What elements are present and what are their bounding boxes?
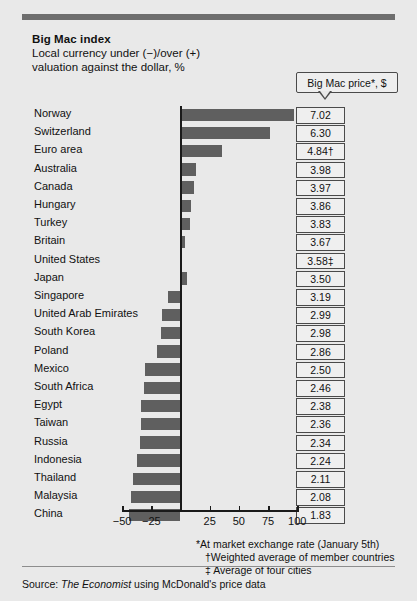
chart-bar: [182, 181, 195, 194]
country-label: Thailand: [34, 471, 76, 483]
source-publication: The Economist: [61, 578, 131, 590]
chart-bar: [182, 200, 191, 213]
country-label: Taiwan: [34, 416, 68, 428]
bottom-rule: [22, 566, 395, 567]
chart-row: Canada3.97: [0, 179, 417, 197]
chart-bar: [133, 473, 181, 486]
price-value-box: 2.99: [296, 307, 345, 324]
x-axis-tick: [239, 506, 241, 512]
price-value-box: 2.36: [296, 416, 345, 433]
chart-bar: [137, 454, 180, 467]
chart-row: Taiwan2.36: [0, 415, 417, 433]
chart-bar: [144, 382, 180, 395]
chart-bar: [182, 145, 223, 158]
price-value-box: 3.97: [296, 180, 345, 197]
price-value-box: 3.83: [296, 216, 345, 233]
country-label: Singapore: [34, 289, 84, 301]
country-label: United Arab Emirates: [34, 307, 138, 319]
chart-bar: [182, 127, 271, 140]
chart-row: Indonesia2.24: [0, 452, 417, 470]
chart-bar: [182, 236, 186, 249]
chart-row: Malaysia2.08: [0, 488, 417, 506]
zero-axis-line: [180, 106, 182, 510]
x-axis-tick: [210, 506, 212, 512]
chart-bar: [182, 109, 294, 122]
price-value-box: 2.38: [296, 398, 345, 415]
chart-row: Thailand2.11: [0, 470, 417, 488]
footnote-star: *At market exchange rate (January 5th): [196, 538, 379, 550]
price-value-box: 3.98: [296, 162, 345, 179]
bar-chart-plot-area: Norway7.02Switzerland6.30Euro area4.84†A…: [0, 106, 417, 506]
price-value-box: 2.24: [296, 453, 345, 470]
chart-row: Egypt2.38: [0, 397, 417, 415]
country-label: Canada: [34, 180, 73, 192]
country-label: Russia: [34, 435, 68, 447]
chart-row: Hungary3.86: [0, 197, 417, 215]
chart-row: Norway7.02: [0, 106, 417, 124]
chart-row: United States3.58‡: [0, 252, 417, 270]
country-label: United States: [34, 253, 100, 265]
price-column-header: Big Mac price*, $: [296, 72, 398, 93]
chart-row: Australia3.98: [0, 161, 417, 179]
price-value-box: 2.34: [296, 435, 345, 452]
country-label: Indonesia: [34, 453, 82, 465]
chart-bar: [168, 291, 181, 304]
x-axis-tick: [151, 506, 153, 512]
country-label: Malaysia: [34, 489, 77, 501]
x-axis-tick-label: 25: [204, 515, 216, 527]
country-label: Switzerland: [34, 125, 91, 137]
chart-row: Russia2.34: [0, 434, 417, 452]
chart-bar: [141, 400, 181, 413]
chart-row: Singapore3.19: [0, 288, 417, 306]
chart-row: Switzerland6.30: [0, 124, 417, 142]
chart-row: Britain3.67: [0, 233, 417, 251]
chart-row: Turkey3.83: [0, 215, 417, 233]
country-label: Egypt: [34, 398, 62, 410]
chart-bar: [182, 272, 188, 285]
chart-bar: [162, 309, 181, 322]
price-value-box: 2.11: [296, 471, 345, 488]
source-suffix: using McDonald's price data: [131, 578, 266, 590]
country-label: Australia: [34, 162, 77, 174]
price-value-box: 2.46: [296, 380, 345, 397]
chart-row: Euro area4.84†: [0, 142, 417, 160]
source-line: Source: The Economist using McDonald's p…: [22, 578, 266, 590]
chart-row: United Arab Emirates2.99: [0, 306, 417, 324]
country-label: China: [34, 507, 63, 519]
chart-bar: [140, 436, 181, 449]
x-axis-tick: [268, 506, 270, 512]
country-label: Euro area: [34, 143, 82, 155]
chart-bar: [161, 327, 181, 340]
country-label: Mexico: [34, 362, 69, 374]
price-value-box: 3.86: [296, 198, 345, 215]
price-value-box: 3.67: [296, 234, 345, 251]
x-axis-tick-label: −50: [113, 515, 132, 527]
price-value-box: 2.08: [296, 489, 345, 506]
x-axis-tick: [181, 506, 183, 512]
subtitle-line-2: valuation against the dollar, %: [32, 61, 185, 73]
price-value-box: 4.84†: [296, 143, 345, 160]
country-label: Britain: [34, 234, 65, 246]
country-label: South Korea: [34, 325, 95, 337]
x-axis-tick: [122, 506, 124, 512]
x-axis-tick-label: −25: [142, 515, 161, 527]
chart-row: South Korea2.98: [0, 324, 417, 342]
country-label: Norway: [34, 107, 71, 119]
chart-bar: [182, 218, 190, 231]
source-prefix: Source:: [22, 578, 61, 590]
chart-bar: [182, 163, 196, 176]
chart-bar: [141, 418, 181, 431]
caret-down-icon: [318, 91, 332, 100]
country-label: South Africa: [34, 380, 93, 392]
price-value-box: 3.50: [296, 271, 345, 288]
x-axis-tick: [297, 506, 299, 512]
top-rule: [22, 14, 395, 20]
country-label: Poland: [34, 344, 68, 356]
footnote-dagger: †Weighted average of member countries: [205, 551, 395, 563]
country-label: Turkey: [34, 216, 67, 228]
price-value-box: 7.02: [296, 107, 345, 124]
price-value-box: 6.30: [296, 125, 345, 142]
price-value-box: 2.86: [296, 344, 345, 361]
subtitle-line-1: Local currency under (−)/over (+): [32, 47, 200, 59]
chart-bar: [157, 345, 180, 358]
